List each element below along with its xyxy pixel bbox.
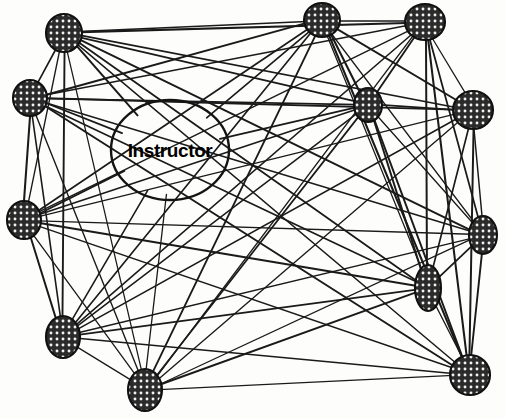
student-node-n6[interactable] bbox=[453, 91, 493, 129]
student-node-n2[interactable] bbox=[13, 80, 47, 116]
node-shape-n12[interactable] bbox=[450, 355, 490, 395]
student-node-n3[interactable] bbox=[304, 3, 340, 37]
node-shape-n4[interactable] bbox=[405, 4, 445, 40]
instructor-label: Instructor bbox=[128, 140, 214, 161]
node-shape-n7[interactable] bbox=[7, 201, 41, 239]
node-shape-n2[interactable] bbox=[13, 80, 47, 116]
node-shape-n8[interactable] bbox=[469, 216, 497, 254]
student-node-n5[interactable] bbox=[354, 88, 382, 122]
student-node-n7[interactable] bbox=[7, 201, 41, 239]
node-shape-n9[interactable] bbox=[415, 265, 441, 311]
node-shape-n11[interactable] bbox=[128, 369, 162, 411]
node-shape-n5[interactable] bbox=[354, 88, 382, 122]
sociogram-figure: Instructor bbox=[0, 0, 505, 419]
node-shape-n1[interactable] bbox=[46, 14, 82, 52]
student-node-n12[interactable] bbox=[450, 355, 490, 395]
sociogram-canvas: Instructor bbox=[0, 0, 505, 419]
student-node-n1[interactable] bbox=[46, 14, 82, 52]
student-node-n8[interactable] bbox=[469, 216, 497, 254]
node-shape-n10[interactable] bbox=[46, 316, 80, 358]
student-node-n10[interactable] bbox=[46, 316, 80, 358]
student-node-n11[interactable] bbox=[128, 369, 162, 411]
student-node-n4[interactable] bbox=[405, 4, 445, 40]
node-shape-n3[interactable] bbox=[304, 3, 340, 37]
node-shape-n6[interactable] bbox=[453, 91, 493, 129]
student-node-n9[interactable] bbox=[415, 265, 441, 311]
